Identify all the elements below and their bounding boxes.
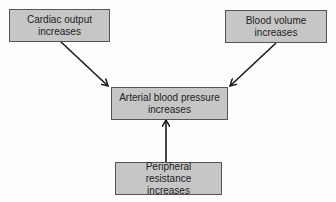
arrow-bloodvolume-to-arterial [230, 43, 276, 86]
node-label-line: Peripheral resistance [122, 161, 215, 185]
node-label-line: increases [246, 27, 307, 39]
node-label-line: increases [122, 185, 215, 197]
node-label-line: Cardiac output [27, 14, 92, 26]
node-peripheral-resistance: Peripheral resistance increases [115, 162, 222, 195]
node-arterial-blood-pressure: Arterial blood pressure increases [111, 87, 228, 120]
diagram-canvas: Cardiac output increases Blood volume in… [0, 0, 336, 202]
node-label-line: increases [119, 104, 220, 116]
node-label-line: Blood volume [246, 15, 307, 27]
node-label-line: Arterial blood pressure [119, 92, 220, 104]
node-blood-volume: Blood volume increases [225, 10, 327, 43]
node-label-line: increases [27, 26, 92, 38]
arrow-cardiac-to-arterial [60, 41, 108, 86]
node-cardiac-output: Cardiac output increases [9, 9, 110, 42]
